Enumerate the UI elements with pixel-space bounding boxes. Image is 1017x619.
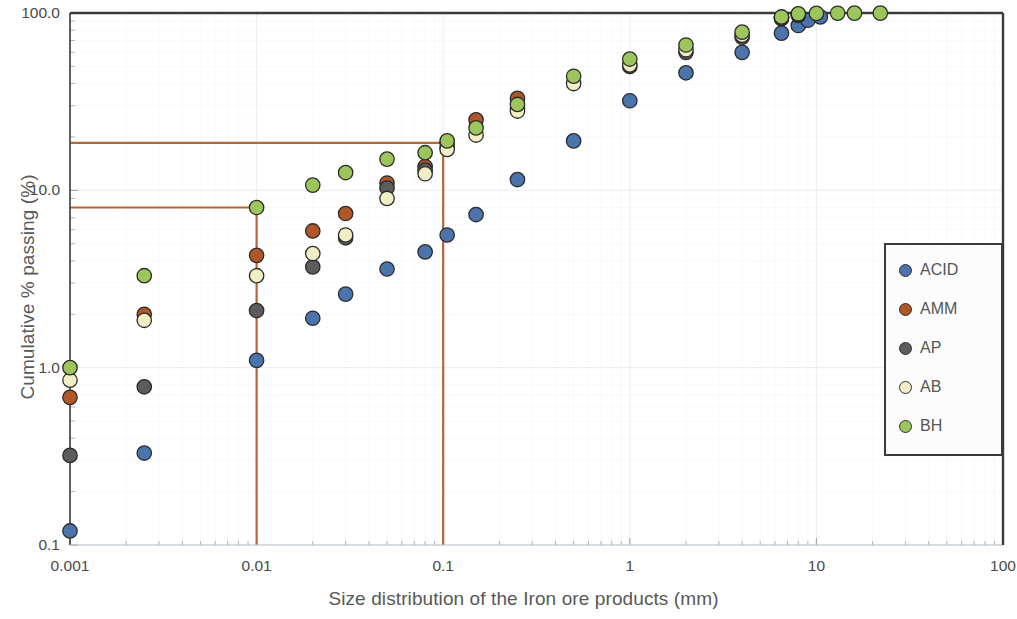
plot-frame bbox=[70, 13, 1003, 545]
y-tick-label: 0.1 bbox=[2, 536, 60, 554]
legend-marker-icon bbox=[899, 342, 912, 355]
legend-marker-icon bbox=[899, 264, 912, 277]
y-axis-title: Cumulative % passing (%) bbox=[17, 107, 39, 467]
series-amm bbox=[63, 91, 525, 404]
data-points bbox=[63, 6, 888, 538]
x-tick-label: 100 bbox=[990, 557, 1016, 575]
series-acid bbox=[63, 10, 828, 538]
plot-area bbox=[0, 0, 1017, 619]
legend-marker-icon bbox=[899, 381, 912, 394]
x-tick-label: 10 bbox=[808, 557, 825, 575]
y-tick-label: 100.0 bbox=[2, 4, 60, 22]
legend-item-amm[interactable]: AMM bbox=[899, 301, 957, 317]
scatter-chart: 0.0010.010.11101000.11.010.0100.0 Cumula… bbox=[0, 0, 1017, 619]
series-ab bbox=[63, 7, 806, 387]
x-tick-label: 0.001 bbox=[51, 557, 90, 575]
series-ap bbox=[63, 8, 806, 462]
legend-marker-icon bbox=[899, 420, 912, 433]
legend: ACIDAMMAPABBH bbox=[884, 243, 1003, 456]
x-tick-label: 0.01 bbox=[242, 557, 272, 575]
legend-item-ap[interactable]: AP bbox=[899, 340, 941, 356]
x-axis-title: Size distribution of the Iron ore produc… bbox=[0, 588, 1017, 610]
x-tick-label: 0.1 bbox=[432, 557, 454, 575]
legend-item-bh[interactable]: BH bbox=[899, 418, 942, 434]
legend-marker-icon bbox=[899, 303, 912, 316]
legend-label: BH bbox=[920, 418, 942, 434]
legend-label: AB bbox=[920, 379, 941, 395]
legend-label: AMM bbox=[920, 301, 957, 317]
grid-lines bbox=[70, 13, 1003, 545]
legend-label: AP bbox=[920, 340, 941, 356]
legend-label: ACID bbox=[920, 262, 958, 278]
legend-item-ab[interactable]: AB bbox=[899, 379, 941, 395]
legend-item-acid[interactable]: ACID bbox=[899, 262, 958, 278]
x-tick-label: 1 bbox=[625, 557, 634, 575]
minor-ticks bbox=[70, 13, 1003, 545]
